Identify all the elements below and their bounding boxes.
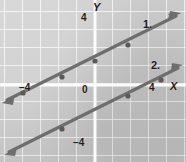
data-point [125,42,130,47]
data-point [59,74,64,79]
coordinate-plot [0,0,186,162]
x-tick-label-4: 4 [149,82,155,93]
data-point [158,77,163,82]
line-2-label: 2. [151,60,160,71]
y-tick-label-minus-4: −4 [73,137,84,148]
y-axis-label: Y [93,2,100,13]
origin-label: 0 [82,84,88,95]
y-tick-label-4: 4 [81,12,87,23]
x-axis-label: X [170,81,177,92]
x-tick-label-minus-4: −4 [19,82,30,93]
graph-figure: Y X 4 −4 −4 4 0 1. 2. [0,0,186,162]
data-point [125,93,130,98]
data-point [92,58,97,63]
data-point [59,126,64,131]
line-1-label: 1. [143,19,152,30]
